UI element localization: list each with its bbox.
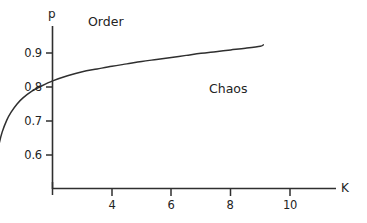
chaos-region-label: Chaos [209,81,247,96]
y-tick-label-0.9: 0.9 [4,46,42,60]
phase-diagram-figure: 0.9 0.8 0.7 0.6 4 6 8 10 p K Order Chaos [0,0,367,223]
y-tick-label-0.7: 0.7 [4,114,42,128]
x-tick-label-8: 8 [215,198,245,212]
order-region-label: Order [88,14,124,29]
x-axis-label: K [341,181,349,195]
plot-canvas [0,0,367,223]
x-tick-label-10: 10 [275,198,305,212]
x-tick-label-6: 6 [156,198,186,212]
y-tick-label-0.8: 0.8 [4,80,42,94]
y-tick-label-0.6: 0.6 [4,148,42,162]
x-tick-label-4: 4 [97,198,127,212]
y-axis-label: p [48,7,56,21]
